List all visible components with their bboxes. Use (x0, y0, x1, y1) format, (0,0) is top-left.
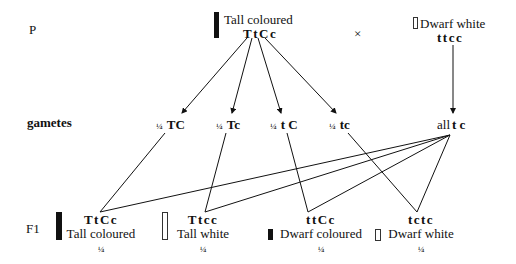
line-alltc-to-Ttcc (205, 135, 450, 212)
gamete-all-tc: allt c (437, 117, 465, 133)
gamete-allele: t c (452, 117, 465, 132)
parent-left-genotype: TtCc (243, 26, 277, 42)
f1-fraction: ¼ (170, 244, 236, 254)
row-label-p: P (29, 22, 36, 38)
arrow-to-gamete-Tc (232, 38, 252, 113)
empty-bar-short-icon (413, 17, 418, 29)
gamete-Tc: ¼Tc (216, 117, 240, 133)
line-tC-to-ttCc (287, 133, 308, 212)
gamete-fraction: ¼ (156, 121, 163, 131)
empty-bar-tall-icon (162, 212, 168, 240)
arrow-to-gamete-tC (258, 38, 281, 113)
arrow-to-gamete-tc (265, 38, 336, 113)
empty-bar-short-icon (375, 229, 381, 241)
gamete-fraction: ¼ (270, 121, 277, 131)
gamete-fraction: ¼ (216, 121, 223, 131)
f1-phenotype: Tall white (170, 226, 236, 242)
arrow-to-gamete-TC (182, 38, 247, 113)
f1-offspring-1: TtCc Tall coloured ¼ (62, 212, 140, 254)
f1-offspring-3: ttCc Dwarf coloured ¼ (275, 212, 367, 254)
line-alltc-to-ttCc (308, 135, 450, 212)
f1-phenotype: Tall coloured (62, 226, 140, 242)
line-alltc-to-tctc (417, 135, 450, 212)
filled-bar-short-icon (268, 229, 273, 240)
f1-phenotype: Dwarf white (385, 226, 457, 242)
row-label-gametes: gametes (27, 115, 72, 131)
filled-bar-tall-icon (214, 12, 219, 38)
cross-symbol: × (354, 26, 361, 42)
gamete-allele: Tc (227, 117, 240, 132)
gamete-allele: tc (340, 117, 350, 132)
gamete-tc: ¼tc (329, 117, 350, 133)
line-Tc-to-Ttcc (205, 133, 226, 212)
f1-offspring-2: Ttcc Tall white ¼ (170, 212, 236, 254)
parent-right-genotype: ttcc (437, 30, 463, 46)
f1-fraction: ¼ (385, 244, 457, 254)
gamete-TC: ¼TC (156, 117, 185, 133)
gamete-fraction: ¼ (329, 121, 336, 131)
f1-phenotype: Dwarf coloured (275, 226, 367, 242)
gamete-tC: ¼t C (270, 117, 298, 133)
gamete-prefix: all (437, 117, 450, 132)
row-label-f1: F1 (26, 221, 40, 237)
gamete-allele: TC (167, 117, 185, 132)
gamete-allele: t C (281, 117, 298, 132)
f1-offspring-4: tctc Dwarf white ¼ (385, 212, 457, 254)
f1-fraction: ¼ (62, 244, 140, 254)
line-alltc-to-TtCc (100, 135, 450, 212)
f1-fraction: ¼ (275, 244, 367, 254)
